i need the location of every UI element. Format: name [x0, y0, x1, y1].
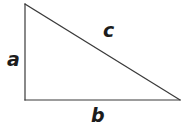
label-leg-b: b — [91, 106, 105, 125]
label-hypotenuse-c: c — [103, 21, 114, 40]
label-leg-a: a — [7, 50, 20, 69]
triangle-diagram: a b c — [0, 0, 190, 132]
